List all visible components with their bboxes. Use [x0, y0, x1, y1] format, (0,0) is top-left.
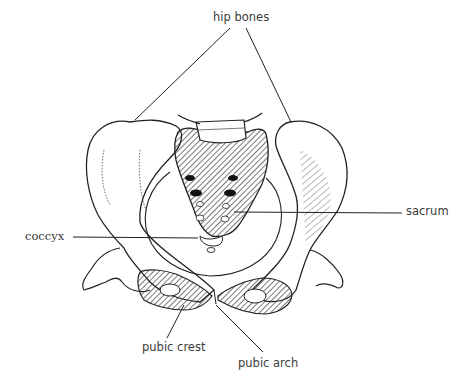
hip-bones-left-leader — [135, 28, 230, 120]
hip-bones-right-leader — [246, 28, 291, 122]
sacrum-bone — [175, 113, 268, 253]
label-hip-bones: hip bones — [213, 12, 269, 24]
label-coccyx: coccyx — [25, 231, 64, 243]
label-pubic-arch: pubic arch — [238, 358, 298, 370]
sacrum-leader — [234, 212, 402, 213]
label-sacrum: sacrum — [406, 206, 449, 218]
coccyx-leader — [73, 237, 198, 238]
pelvis-diagram: hip bones sacrum coccyx pubic crest pubi… — [0, 0, 471, 388]
pelvis-illustration — [0, 0, 471, 388]
label-pubic-crest: pubic crest — [142, 342, 205, 354]
